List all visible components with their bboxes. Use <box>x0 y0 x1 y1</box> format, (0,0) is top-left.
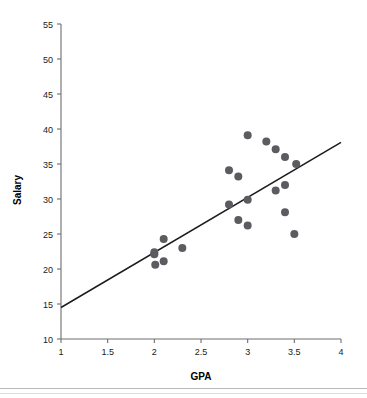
footer-divider-secondary <box>0 393 367 394</box>
data-point <box>160 235 168 243</box>
scatter-chart: 10152025303540455055 Salary 11.522.533.5… <box>0 0 367 398</box>
y-tick-label: 55 <box>43 20 53 30</box>
y-tick-label: 25 <box>43 230 53 240</box>
data-point <box>234 173 242 181</box>
y-axis-title: Salary <box>12 175 23 205</box>
data-point <box>150 248 158 256</box>
data-point <box>151 261 159 269</box>
regression-line <box>61 142 341 307</box>
data-point <box>290 230 298 238</box>
y-tick-label: 20 <box>43 265 53 275</box>
chart-plot-area: 10152025303540455055 Salary 11.522.533.5… <box>0 0 367 398</box>
x-tick-label: 3 <box>245 347 250 357</box>
data-point <box>244 222 252 230</box>
x-axis-ticks: 11.522.533.54 <box>58 339 343 357</box>
data-point <box>281 153 289 161</box>
x-tick-label: 4 <box>338 347 343 357</box>
data-point <box>225 201 233 209</box>
y-axis: 10152025303540455055 Salary <box>12 20 61 345</box>
data-point <box>272 187 280 195</box>
data-point <box>272 145 280 153</box>
y-tick-label: 40 <box>43 125 53 135</box>
data-point <box>244 196 252 204</box>
data-point <box>281 208 289 216</box>
data-point <box>160 257 168 265</box>
data-point <box>244 131 252 139</box>
y-tick-label: 15 <box>43 300 53 310</box>
x-axis-title: GPA <box>191 371 212 382</box>
trend-line <box>61 142 341 307</box>
y-tick-label: 10 <box>43 335 53 345</box>
data-point <box>262 138 270 146</box>
data-point <box>292 160 300 168</box>
x-tick-label: 1.5 <box>101 347 114 357</box>
y-axis-ticks: 10152025303540455055 <box>43 20 61 345</box>
x-tick-label: 3.5 <box>288 347 301 357</box>
y-tick-label: 35 <box>43 160 53 170</box>
data-points <box>150 131 300 268</box>
x-tick-label: 1 <box>58 347 63 357</box>
x-tick-label: 2.5 <box>195 347 208 357</box>
data-point <box>234 216 242 224</box>
footer-divider <box>0 388 367 389</box>
y-tick-label: 50 <box>43 55 53 65</box>
data-point <box>225 166 233 174</box>
x-tick-label: 2 <box>152 347 157 357</box>
y-tick-label: 30 <box>43 195 53 205</box>
y-tick-label: 45 <box>43 90 53 100</box>
x-axis: 11.522.533.54 GPA <box>58 339 343 382</box>
data-point <box>178 244 186 252</box>
data-point <box>281 181 289 189</box>
